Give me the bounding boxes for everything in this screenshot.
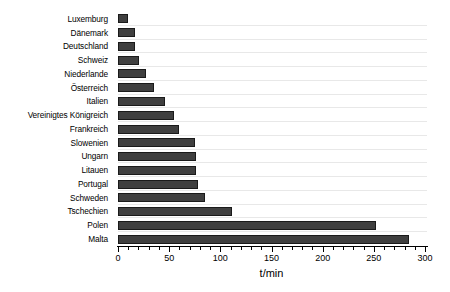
category-label: Italien — [0, 95, 112, 109]
tick-minor — [128, 247, 129, 250]
tick-major — [425, 247, 426, 252]
bar-row — [118, 122, 425, 136]
bar — [118, 207, 232, 216]
bar — [118, 125, 179, 134]
category-label: Schweden — [0, 191, 112, 205]
tick-minor — [190, 247, 191, 250]
x-tick-label: 100 — [213, 253, 228, 264]
tick-minor — [241, 247, 242, 250]
category-label: Malta — [0, 232, 112, 246]
tick-major — [220, 247, 221, 252]
category-label: Österreich — [0, 81, 112, 95]
bar-row — [118, 40, 425, 54]
bar-row — [118, 163, 425, 177]
category-label: Vereinigtes Königreich — [0, 108, 112, 122]
tick-minor — [364, 247, 365, 250]
bar — [118, 152, 196, 161]
bar-row — [118, 67, 425, 81]
tick-major — [374, 247, 375, 252]
tick-minor — [231, 247, 232, 250]
bar — [118, 111, 174, 120]
tick-minor — [159, 247, 160, 250]
tick-major — [323, 247, 324, 252]
tick-minor — [261, 247, 262, 250]
bar-row — [118, 177, 425, 191]
bar-row — [118, 108, 425, 122]
category-label: Ungarn — [0, 150, 112, 164]
bar — [118, 83, 154, 92]
bar — [118, 235, 409, 244]
tick-minor — [415, 247, 416, 250]
bar-row — [118, 53, 425, 67]
tick-major — [169, 247, 170, 252]
tick-minor — [282, 247, 283, 250]
category-label: Tschechien — [0, 205, 112, 219]
tick-minor — [138, 247, 139, 250]
tick-minor — [251, 247, 252, 250]
bar — [118, 56, 139, 65]
category-label: Slowenien — [0, 136, 112, 150]
tick-minor — [200, 247, 201, 250]
bar-row — [118, 218, 425, 232]
category-label: Schweiz — [0, 53, 112, 67]
plot-area — [118, 12, 425, 246]
category-label: Frankreich — [0, 122, 112, 136]
bar-row — [118, 12, 425, 26]
x-tick-label: 250 — [366, 253, 381, 264]
tick-minor — [292, 247, 293, 250]
bar-series — [118, 12, 425, 246]
tick-minor — [179, 247, 180, 250]
category-label: Luxemburg — [0, 12, 112, 26]
tick-minor — [302, 247, 303, 250]
bar — [118, 166, 196, 175]
bar-chart: LuxemburgDänemarkDeutschlandSchweizNiede… — [0, 0, 450, 292]
x-tick-label: 150 — [264, 253, 279, 264]
x-axis-title: t/min — [118, 267, 425, 279]
bar-row — [118, 26, 425, 40]
tick-minor — [343, 247, 344, 250]
bar — [118, 14, 128, 23]
tick-minor — [149, 247, 150, 250]
tick-minor — [333, 247, 334, 250]
bar — [118, 42, 135, 51]
tick-minor — [312, 247, 313, 250]
category-label: Litauen — [0, 163, 112, 177]
bar-row — [118, 150, 425, 164]
category-label: Portugal — [0, 177, 112, 191]
bar — [118, 28, 135, 37]
x-tick-label: 50 — [164, 253, 174, 264]
tick-minor — [384, 247, 385, 250]
bar — [118, 180, 198, 189]
bar — [118, 69, 146, 78]
x-tick-label: 0 — [115, 253, 120, 264]
bar — [118, 193, 205, 202]
category-label: Polen — [0, 218, 112, 232]
tick-minor — [405, 247, 406, 250]
category-axis-labels: LuxemburgDänemarkDeutschlandSchweizNiede… — [0, 12, 112, 246]
x-axis-tick-labels: 050100150200250300 — [118, 253, 425, 265]
tick-minor — [353, 247, 354, 250]
x-tick-label: 300 — [417, 253, 432, 264]
bar-row — [118, 81, 425, 95]
bar-row — [118, 232, 425, 246]
tick-minor — [394, 247, 395, 250]
tick-major — [272, 247, 273, 252]
tick-major — [118, 247, 119, 252]
bar-row — [118, 205, 425, 219]
bar — [118, 221, 376, 230]
bar-row — [118, 136, 425, 150]
tick-minor — [210, 247, 211, 250]
bar-row — [118, 191, 425, 205]
category-label: Niederlande — [0, 67, 112, 81]
bar — [118, 97, 165, 106]
bar — [118, 138, 195, 147]
category-label: Dänemark — [0, 26, 112, 40]
bar-row — [118, 95, 425, 109]
x-tick-label: 200 — [315, 253, 330, 264]
category-label: Deutschland — [0, 40, 112, 54]
